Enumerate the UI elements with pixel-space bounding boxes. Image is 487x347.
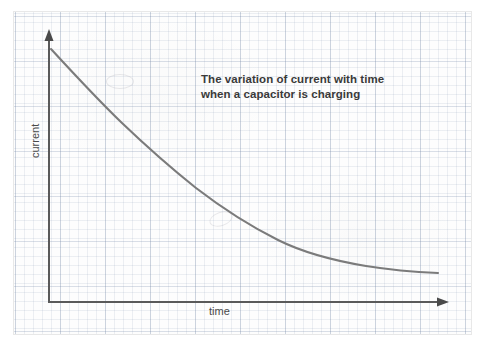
chart-title: The variation of current with time when … [201, 72, 416, 101]
x-axis-label: time [209, 306, 230, 317]
screenshot-root: The variation of current with time when … [0, 0, 487, 347]
graph-paper-figure: The variation of current with time when … [13, 11, 472, 335]
chart-title-line-1: The variation of current with time [201, 72, 416, 87]
y-axis-arrowhead [45, 29, 54, 41]
y-axis-label: current [30, 124, 41, 158]
chart-plot-area [14, 12, 471, 334]
chart-title-line-2: when a capacitor is charging [201, 87, 416, 102]
x-axis-arrowhead [437, 298, 449, 307]
